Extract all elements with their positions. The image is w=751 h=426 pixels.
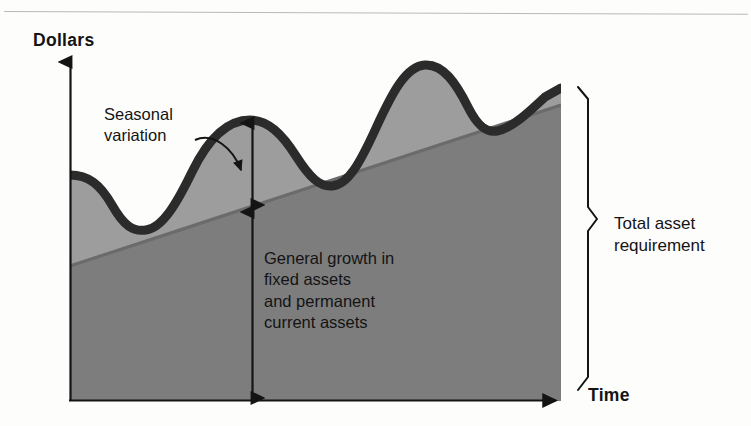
seasonal-variation-label: Seasonal variation <box>104 104 173 146</box>
total-asset-requirement-bracket <box>578 87 597 390</box>
y-axis-label: Dollars <box>33 30 94 51</box>
x-axis-label: Time <box>588 385 630 406</box>
total-asset-requirement-label: Total asset requirement <box>614 213 705 257</box>
figure-page: Dollars Time Seasonal variation General … <box>0 0 751 426</box>
general-growth-label: General growth in fixed assets and perma… <box>264 248 394 334</box>
